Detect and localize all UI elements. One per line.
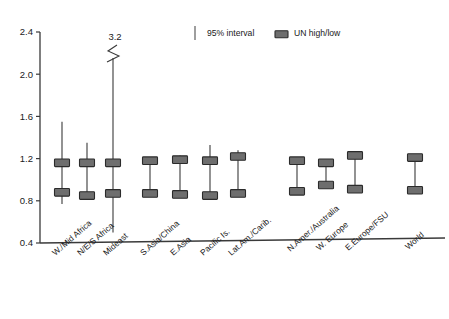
un-low-marker	[203, 192, 218, 200]
data-series-group	[55, 58, 423, 232]
chart-legend: 95% intervalUN high/low	[195, 26, 341, 40]
axis-break-symbol	[107, 45, 119, 62]
un-high-marker	[143, 157, 158, 165]
un-low-marker	[80, 192, 95, 200]
un-low-marker	[106, 190, 121, 198]
un-high-marker	[80, 159, 95, 167]
un-high-marker	[319, 159, 334, 167]
un-low-marker	[143, 190, 158, 198]
y-axis-tick-group: 0.40.81.21.62.02.4	[20, 26, 40, 248]
un-low-marker	[319, 181, 334, 189]
legend-unhighlow-swatch	[275, 31, 288, 38]
un-low-marker	[231, 190, 246, 198]
un-low-marker	[408, 186, 423, 194]
un-low-marker	[55, 189, 70, 197]
axis-break-group: 3.2	[107, 31, 122, 62]
y-axis-tick-label: 0.8	[20, 195, 33, 206]
un-high-marker	[203, 157, 218, 165]
un-high-marker	[231, 153, 246, 161]
un-low-marker	[348, 185, 363, 193]
axis-break-value-label: 3.2	[108, 31, 121, 42]
y-axis-tick-label: 2.4	[20, 26, 33, 37]
y-axis-tick-label: 1.6	[20, 111, 33, 122]
un-high-marker	[348, 152, 363, 160]
y-axis-tick-label: 1.2	[20, 153, 33, 164]
un-high-marker	[106, 159, 121, 167]
y-axis-tick-label: 2.0	[20, 69, 33, 80]
un-low-marker	[290, 188, 305, 196]
y-axis-tick-label: 0.4	[20, 237, 33, 248]
un-low-marker	[173, 191, 188, 199]
un-high-marker	[55, 159, 70, 167]
un-high-marker	[290, 157, 305, 165]
chart-container: 0.40.81.21.62.02.4 3.2 95% intervalUN hi…	[0, 0, 449, 319]
un-high-marker	[173, 156, 188, 164]
legend-unhighlow-label: UN high/low	[294, 28, 341, 38]
chart-plot-area: 0.40.81.21.62.02.4 3.2 95% intervalUN hi…	[0, 0, 449, 319]
legend-interval-label: 95% interval	[207, 28, 254, 38]
un-high-marker	[408, 154, 423, 162]
